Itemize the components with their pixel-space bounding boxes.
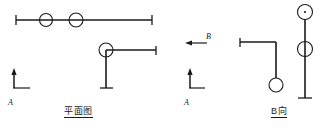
section-arrow-a-left bbox=[11, 68, 30, 88]
section-arrow-b bbox=[185, 40, 207, 45]
section-label-b: B bbox=[206, 33, 211, 41]
lower-assembly-group bbox=[99, 43, 156, 88]
section-label-a-left: A bbox=[8, 99, 13, 107]
plan-view-group bbox=[11, 13, 156, 88]
drawing-canvas: A A B 平面图 B向 bbox=[0, 0, 320, 130]
section-arrow-a-mid-arrowhead bbox=[187, 68, 192, 75]
b-view-title: B向 bbox=[271, 107, 287, 118]
b-view-mast-group bbox=[298, 5, 313, 99]
section-arrow-a-mid bbox=[187, 68, 205, 88]
section-arrow-a-left-arrowhead bbox=[11, 68, 16, 75]
b-view-elbow-group bbox=[240, 38, 283, 92]
section-arrow-b-arrowhead bbox=[185, 40, 192, 45]
section-markers-group bbox=[185, 40, 207, 88]
section-label-a-mid: A bbox=[184, 99, 189, 107]
plan-view-title: 平面图 bbox=[64, 107, 93, 118]
top-rail-group bbox=[16, 13, 152, 27]
b-view-mast-circle-top-center-dot bbox=[304, 11, 306, 13]
b-view-group bbox=[240, 5, 313, 99]
b-view-elbow-circle bbox=[269, 78, 283, 92]
